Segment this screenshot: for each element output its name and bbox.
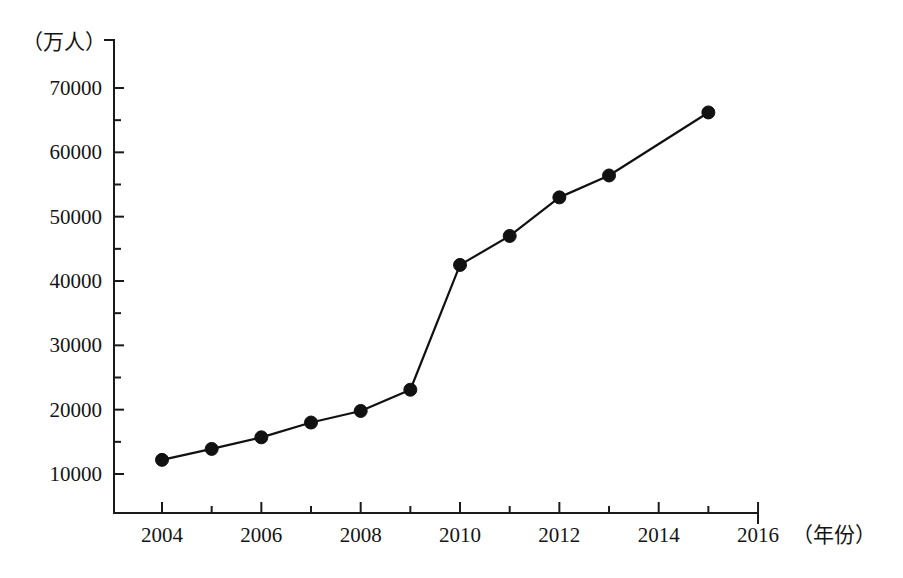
y-tick-label: 40000 [50,269,103,293]
x-tick-label: 2010 [439,523,481,547]
x-tick-label: 2016 [737,523,779,547]
data-point-markers [156,106,715,466]
data-point-2007 [305,416,318,429]
x-tick-label: 2014 [638,523,681,547]
y-tick-label: 10000 [50,462,103,486]
x-tick-label: 2012 [538,523,580,547]
y-tick-label: 30000 [50,333,103,357]
x-axis-unit-label: （年份） [792,523,876,547]
y-tick-label: 50000 [50,205,103,229]
data-point-2008 [354,404,367,417]
y-axis-unit-label: （万人） [22,30,106,54]
data-line-series [162,112,708,459]
line-chart: 10000200003000040000500006000070000 2004… [0,0,903,578]
data-point-2012 [553,191,566,204]
x-axis-ticks [162,502,758,513]
x-axis-line [114,513,758,523]
y-axis-line [105,40,114,513]
x-tick-label: 2004 [141,523,184,547]
data-point-2015 [702,106,715,119]
x-axis-tick-labels: 2004200620082010201220142016 [141,523,779,547]
y-tick-label: 20000 [50,398,103,422]
data-point-2009 [404,383,417,396]
y-tick-label: 60000 [50,140,103,164]
y-axis-tick-labels: 10000200003000040000500006000070000 [50,76,103,486]
data-point-2013 [603,169,616,182]
data-point-2006 [255,431,268,444]
x-tick-label: 2008 [340,523,382,547]
data-point-2010 [454,258,467,271]
y-axis-ticks [114,88,124,474]
data-point-2005 [205,442,218,455]
chart-canvas: 10000200003000040000500006000070000 2004… [0,0,903,578]
y-tick-label: 70000 [50,76,103,100]
x-tick-label: 2006 [240,523,282,547]
data-point-2011 [503,229,516,242]
data-point-2004 [156,453,169,466]
